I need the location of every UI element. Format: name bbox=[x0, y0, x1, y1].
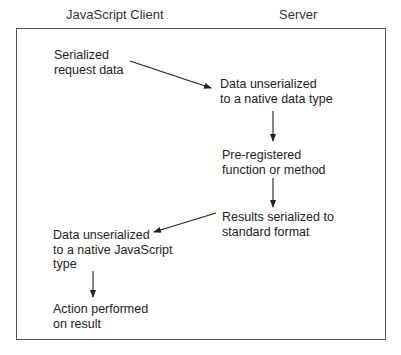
arrow-results-to-client bbox=[154, 213, 216, 232]
arrow-request-to-server bbox=[130, 61, 211, 88]
flow-arrows bbox=[0, 0, 401, 355]
